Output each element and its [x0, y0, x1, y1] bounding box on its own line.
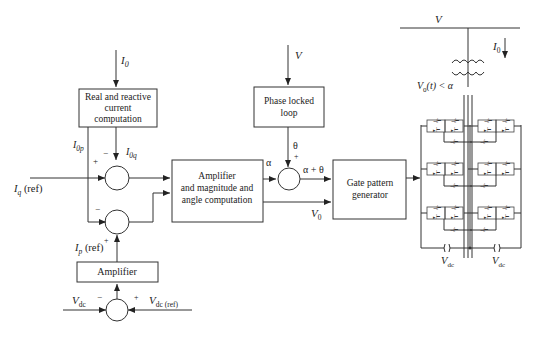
ip-ref-label: Ip (ref) [74, 242, 104, 256]
bottom-summing-junction [105, 210, 129, 234]
current-computation-block: Real and reactive current computation [79, 89, 157, 127]
svg-text:⊣⊢: ⊣⊢ [480, 139, 488, 145]
svg-text:⊣⊢: ⊣⊢ [484, 205, 492, 211]
svg-text:▸⊢: ▸⊢ [484, 127, 491, 133]
svg-text:loop: loop [281, 108, 298, 118]
svg-text:▸⊢: ▸⊢ [502, 214, 509, 220]
iq-ref-label: Iq (ref) [13, 183, 43, 197]
bottom-summer-output [129, 193, 170, 222]
svg-text:⊣⊢: ⊣⊢ [502, 161, 510, 167]
svg-text:⊣⊢: ⊣⊢ [433, 161, 441, 167]
svg-text:Amplifier: Amplifier [97, 266, 137, 277]
alpha-theta-label: α + θ [303, 164, 324, 175]
vdc-summing-junction [106, 299, 128, 321]
vdc-cap-right-label: Vdc [492, 255, 505, 269]
svg-text:▸⊢: ▸⊢ [502, 170, 509, 176]
plus-sign-vdc-summer: + [134, 293, 139, 302]
svg-text:computation: computation [94, 114, 142, 124]
svg-text:⊣⊢: ⊣⊢ [484, 161, 492, 167]
svg-text:Amplifier: Amplifier [198, 171, 236, 181]
transformer-icon [452, 60, 484, 87]
switch-module-row2-right: ⊣⊢ ⊣⊢ ▸⊢ ▸⊢ ⊣⊢ [468, 161, 521, 189]
minus-sign-vdc-summer: − [97, 292, 102, 302]
svg-text:▸⊢: ▸⊢ [502, 127, 509, 133]
svg-text:▸⊢: ▸⊢ [451, 170, 458, 176]
three-phase-conductors [464, 95, 472, 258]
minus-sign-top-summer: − [103, 148, 108, 158]
svg-text:⊣⊢: ⊣⊢ [433, 205, 441, 211]
vdc-cap-left-label: Vdc [441, 255, 454, 269]
amplifier-block: Amplifier [77, 262, 158, 282]
svg-text:⊣⊢: ⊣⊢ [433, 118, 441, 124]
svg-text:⊣⊢: ⊣⊢ [480, 227, 488, 233]
svg-text:current: current [105, 103, 132, 113]
svg-text:▸⊢: ▸⊢ [433, 127, 440, 133]
svg-text:▸⊢: ▸⊢ [451, 214, 458, 220]
svg-text:Real and reactive: Real and reactive [85, 92, 151, 102]
svg-text:⊣⊢: ⊣⊢ [502, 205, 510, 211]
minus-sign-bottom-summer: − [95, 204, 100, 214]
svg-text:⊣⊢: ⊣⊢ [451, 118, 459, 124]
bus-v-label: V [435, 13, 443, 25]
dc-midpoint-node [469, 247, 472, 250]
iop-label: I0p [72, 139, 84, 153]
svg-text:Gate pattern: Gate pattern [347, 178, 394, 188]
svg-text:⊣⊢: ⊣⊢ [484, 118, 492, 124]
plus-sign-bottom-summer: + [104, 236, 109, 245]
svg-text:⊣⊢: ⊣⊢ [450, 139, 458, 145]
top-summing-junction [105, 166, 129, 190]
vdc-label: Vdc [72, 294, 86, 309]
dc-capacitor-left-icon [444, 244, 450, 252]
svg-text:▸⊢: ▸⊢ [484, 170, 491, 176]
alpha-label: α [266, 157, 272, 168]
svg-text:angle computation: angle computation [182, 195, 253, 205]
gate-pattern-generator-block: Gate pattern generator [333, 160, 406, 219]
svg-text:▸⊢: ▸⊢ [484, 214, 491, 220]
v0t-label: V0(t) < α [417, 80, 454, 94]
plus-sign-theta: + [294, 152, 299, 161]
alpha-theta-summing-junction [278, 168, 300, 190]
svg-text:▸⊢: ▸⊢ [433, 170, 440, 176]
v-pll-label: V [295, 49, 303, 61]
statcom-control-diagram: I0 Real and reactive current computation… [0, 0, 536, 339]
dc-capacitor-right-icon [494, 244, 500, 252]
svg-text:⊣⊢: ⊣⊢ [451, 205, 459, 211]
i0-label: I0 [120, 54, 129, 69]
i0-bus-label: I0 [492, 40, 501, 55]
ioq-label: I0q [125, 146, 137, 160]
switch-module-row3-right: ⊣⊢ ⊣⊢ ▸⊢ ▸⊢ ⊣⊢ [464, 205, 521, 233]
vdc-ref-label: Vdc (ref) [149, 294, 179, 309]
svg-text:generator: generator [352, 190, 389, 200]
svg-text:▸⊢: ▸⊢ [433, 214, 440, 220]
svg-text:⊣⊢: ⊣⊢ [450, 183, 458, 189]
plus-sign-top-summer: + [93, 156, 98, 166]
phase-locked-loop-block: Phase locked loop [254, 87, 324, 127]
svg-text:⊣⊢: ⊣⊢ [480, 183, 488, 189]
theta-label: θ [293, 140, 298, 151]
svg-text:Phase locked: Phase locked [264, 96, 314, 106]
switch-module-row1-right: ⊣⊢ ⊣⊢ ▸⊢ ▸⊢ ⊣⊢ [464, 118, 521, 145]
converter-switch-modules: ⊣⊢ ⊣⊢ ▸⊢ ▸⊢ ⊣⊢ ⊣⊢ ⊣⊢ ▸⊢ ▸⊢ ⊣⊢ ⊣⊢ [421, 118, 521, 233]
svg-text:⊣⊢: ⊣⊢ [450, 227, 458, 233]
svg-text:⊣⊢: ⊣⊢ [502, 118, 510, 124]
svg-text:▸⊢: ▸⊢ [451, 127, 458, 133]
svg-text:and magnitude and: and magnitude and [181, 183, 254, 193]
svg-text:⊣⊢: ⊣⊢ [451, 161, 459, 167]
v0-label: V0 [311, 207, 322, 222]
amplifier-magnitude-angle-block: Amplifier and magnitude and angle comput… [172, 160, 263, 222]
